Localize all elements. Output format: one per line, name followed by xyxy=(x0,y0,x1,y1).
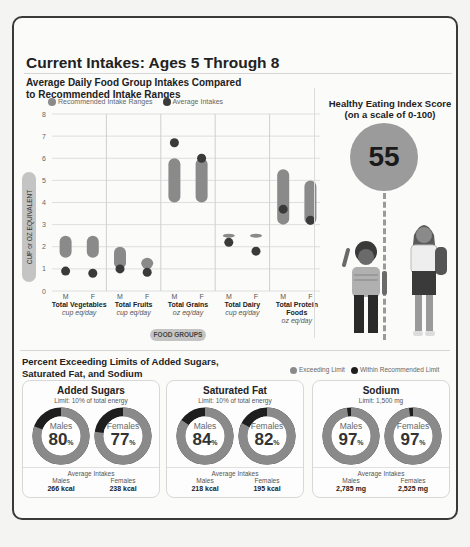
avg-males: Males266 kcal xyxy=(31,477,91,493)
category-label: Total Grainsoz eq/day xyxy=(158,301,218,317)
average-intakes-label: Average Intakes xyxy=(23,470,159,477)
box-divider xyxy=(167,467,303,468)
svg-text:8: 8 xyxy=(42,111,46,118)
box-divider xyxy=(23,467,159,468)
nutrient-box-sodium: Sodium Limit: 1,500 mg Males 97% Females… xyxy=(312,380,450,498)
nutrient-box-added-sugars: Added Sugars Limit: 10% of total energy … xyxy=(22,380,160,498)
svg-text:F: F xyxy=(145,293,149,300)
svg-text:3: 3 xyxy=(42,221,46,228)
children-illustration-icon xyxy=(336,205,456,345)
nutrient-title: Saturated Fat xyxy=(167,385,303,396)
svg-text:2: 2 xyxy=(42,243,46,250)
donut-females: Females 77% xyxy=(93,406,153,466)
legend-item-within: Within Recommended Limit xyxy=(351,366,439,374)
svg-text:M: M xyxy=(280,293,286,300)
svg-text:M: M xyxy=(63,293,69,300)
svg-text:F: F xyxy=(91,293,95,300)
avg-females: Females195 kcal xyxy=(237,477,297,493)
donut-males: Males 80% xyxy=(31,406,91,466)
nutrient-limit: Limit: 10% of total energy xyxy=(23,397,159,404)
svg-text:F: F xyxy=(308,293,312,300)
nutrient-limit: Limit: 10% of total energy xyxy=(167,397,303,404)
svg-text:M: M xyxy=(171,293,177,300)
title-divider xyxy=(24,73,452,74)
svg-text:F: F xyxy=(254,293,258,300)
donut-females: Females 82% xyxy=(237,406,297,466)
donut-males: Males 97% xyxy=(321,406,381,466)
svg-text:0: 0 xyxy=(42,288,46,295)
within-swatch-icon xyxy=(351,367,358,374)
svg-text:1: 1 xyxy=(42,265,46,272)
donut-males: Males 84% xyxy=(175,406,235,466)
avg-males: Males218 kcal xyxy=(175,477,235,493)
avg-females: Females2,525 mg xyxy=(383,477,443,493)
nutrient-box-saturated-fat: Saturated Fat Limit: 10% of total energy… xyxy=(166,380,304,498)
section-divider xyxy=(314,88,315,338)
legend-item-exceeding: Exceeding Limit xyxy=(290,366,345,374)
avg-females: Females238 kcal xyxy=(93,477,153,493)
category-label: Total Fruitscup eq/day xyxy=(104,301,164,317)
exceeding-swatch-icon xyxy=(290,367,297,374)
donut-females: Females 97% xyxy=(383,406,443,466)
category-label: Total Vegetablescup eq/day xyxy=(49,301,109,317)
svg-text:M: M xyxy=(226,293,232,300)
svg-text:M: M xyxy=(117,293,123,300)
category-label: Total Protein Foodsoz eq/day xyxy=(267,301,327,325)
svg-text:5: 5 xyxy=(42,177,46,184)
hei-title: Healthy Eating Index Score (on a scale o… xyxy=(320,98,460,120)
nutrient-title: Added Sugars xyxy=(23,385,159,396)
box-divider xyxy=(313,467,449,468)
limits-legend: Exceeding Limit Within Recommended Limit xyxy=(290,366,439,374)
category-label: Total Dairycup eq/day xyxy=(212,301,272,317)
page-title: Current Intakes: Ages 5 Through 8 xyxy=(26,54,280,72)
hei-score: 55 xyxy=(350,123,418,191)
average-intakes-label: Average Intakes xyxy=(313,470,449,477)
food-group-chart: 012345678MFMFMFMFMF xyxy=(20,100,320,300)
svg-text:F: F xyxy=(199,293,203,300)
average-intakes-label: Average Intakes xyxy=(167,470,303,477)
x-axis-label: FOOD GROUPS xyxy=(150,329,206,341)
svg-text:7: 7 xyxy=(42,133,46,140)
svg-text:6: 6 xyxy=(42,155,46,162)
avg-males: Males2,785 mg xyxy=(321,477,381,493)
limits-title: Percent Exceeding Limits of Added Sugars… xyxy=(22,356,222,380)
svg-text:4: 4 xyxy=(42,199,46,206)
section-divider-horizontal xyxy=(20,350,450,351)
nutrient-title: Sodium xyxy=(313,385,449,396)
nutrient-limit: Limit: 1,500 mg xyxy=(313,397,449,404)
